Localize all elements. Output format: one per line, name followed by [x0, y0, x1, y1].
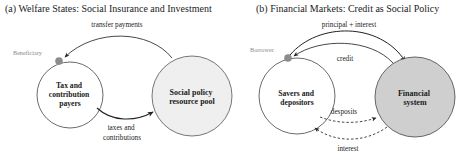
- panel-a-title: (a) Welfare States: Social Insurance and…: [5, 3, 212, 15]
- taxes-arrow: [97, 108, 153, 119]
- diagram-canvas: (a) Welfare States: Social Insurance and…: [0, 0, 466, 156]
- borrower-marker-icon: [284, 54, 292, 62]
- beneficiary-label: Beneficiary: [13, 49, 43, 56]
- savers-label: Savers and depositors: [278, 89, 316, 107]
- interest-arrow: [315, 127, 387, 139]
- interest-label: interest: [337, 145, 358, 153]
- beneficiary-marker-icon: [55, 57, 63, 65]
- credit-label: credit: [337, 55, 353, 63]
- principal-interest-label: principal + interest: [322, 21, 376, 29]
- deposits-label: desposits: [331, 108, 358, 116]
- transfer-payments-label: transfer payments: [91, 21, 142, 29]
- panel-b-title: (b) Financial Markets: Credit as Social …: [256, 3, 439, 15]
- panel-b: (b) Financial Markets: Credit as Social …: [250, 3, 455, 153]
- borrower-label: Borrower: [250, 46, 274, 53]
- panel-a: (a) Welfare States: Social Insurance and…: [5, 3, 232, 142]
- resource-pool-label: Social policy resource pool: [169, 88, 215, 106]
- transfer-payments-arrow: [65, 36, 172, 58]
- taxes-label: taxes and contributions: [103, 124, 141, 142]
